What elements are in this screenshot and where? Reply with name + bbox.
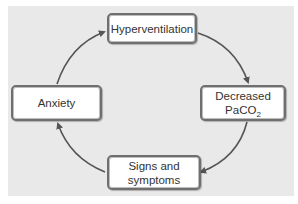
arrow-symptoms-to-anxiety (58, 124, 105, 172)
node-label-line2: symptoms (128, 173, 180, 187)
arrow-anxiety-to-hyperventilation (57, 32, 104, 84)
node-signs-symptoms: Signs and symptoms (107, 155, 201, 190)
node-decreased-paco2: Decreased PaCO2 (200, 85, 286, 121)
node-label-line1: Decreased (215, 89, 271, 103)
node-anxiety: Anxiety (11, 85, 102, 121)
node-label: Hyperventilation (111, 22, 193, 36)
arrow-hyperventilation-to-paco2 (198, 33, 248, 82)
node-label-line1: Signs and (128, 159, 180, 173)
arrow-paco2-to-symptoms (201, 122, 247, 172)
node-label-line2: PaCO2 (215, 103, 271, 117)
node-label: Anxiety (38, 96, 76, 110)
node-hyperventilation: Hyperventilation (107, 13, 197, 44)
